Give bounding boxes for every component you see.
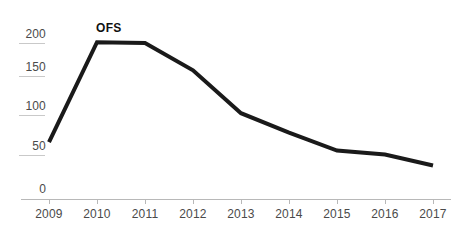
line-chart: 200 150 100 50 0 2009 2010 2011 2012 201… — [0, 0, 462, 232]
plot-area — [0, 0, 462, 232]
series-line-ofs — [49, 42, 433, 165]
